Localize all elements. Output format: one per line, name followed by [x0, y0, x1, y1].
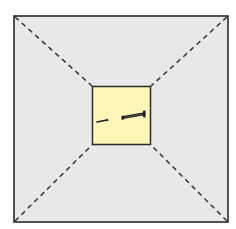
- diagram-svg: [0, 0, 236, 229]
- diagram-canvas: [0, 0, 236, 229]
